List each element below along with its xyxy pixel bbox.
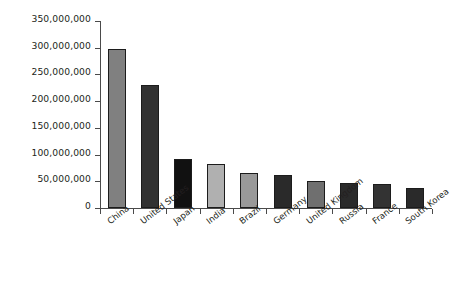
y-axis-tick-label: 250,000,000 — [31, 67, 91, 76]
y-axis-tick-label: 200,000,000 — [31, 94, 91, 103]
x-axis-tick-mark — [266, 209, 267, 214]
x-axis-tick-mark — [399, 209, 400, 214]
x-axis-tick-mark — [133, 209, 134, 214]
y-axis-tick-label: 300,000,000 — [31, 41, 91, 50]
x-axis-tick-mark — [100, 209, 101, 214]
x-axis-tick-mark — [366, 209, 367, 214]
y-axis-tick-label: 350,000,000 — [31, 14, 91, 23]
x-axis-tick-mark — [332, 209, 333, 214]
y-axis-tick-label: 100,000,000 — [31, 148, 91, 157]
y-axis-line — [100, 21, 101, 209]
y-axis-tick-label: 50,000,000 — [37, 174, 91, 183]
x-axis-tick-mark — [200, 209, 201, 214]
bar — [141, 85, 159, 208]
y-axis-tick-label: 0 — [85, 201, 91, 210]
bar-chart: 050,000,000100,000,000150,000,000200,000… — [0, 0, 451, 290]
bar — [207, 164, 225, 208]
bar — [108, 49, 126, 208]
y-axis-tick-label: 150,000,000 — [31, 121, 91, 130]
x-axis-tick-mark — [233, 209, 234, 214]
x-axis-tick-mark — [166, 209, 167, 214]
x-axis-tick-mark — [299, 209, 300, 214]
x-axis-tick-mark — [432, 209, 433, 214]
plot-area: 050,000,000100,000,000150,000,000200,000… — [0, 0, 451, 290]
